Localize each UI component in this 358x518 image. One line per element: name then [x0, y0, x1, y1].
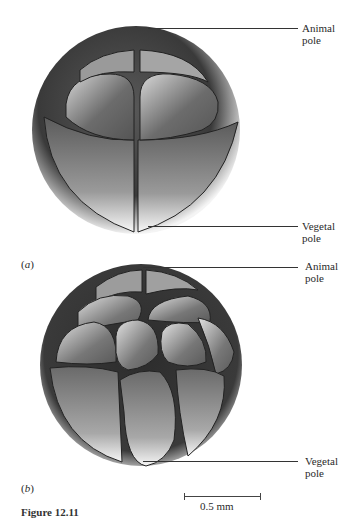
scale-bar-label: 0.5 mm	[200, 500, 234, 512]
panel-letter-a: a	[25, 258, 31, 270]
vegetal-label-line1: Vegetal	[302, 220, 335, 232]
animal-label-line2: pole	[305, 272, 338, 284]
embryo-multicell-image	[38, 262, 244, 468]
animal-pole-label-b: Animal pole	[305, 260, 338, 284]
animal-pole-label-a: Animal pole	[302, 22, 335, 46]
vegetal-pole-label-b: Vegetal pole	[305, 455, 338, 479]
animal-label-line2: pole	[302, 34, 335, 46]
vegetal-pole-label-a: Vegetal pole	[302, 220, 335, 244]
embryo-8-cell-image	[30, 22, 242, 234]
figure-caption: Figure 12.11	[21, 506, 79, 518]
vegetal-label-line2: pole	[302, 232, 335, 244]
scale-bar-tick-right	[260, 493, 261, 500]
vegetal-pole-leader-b	[143, 461, 298, 462]
panel-label-b: (b)	[21, 482, 34, 494]
animal-label-line1: Animal	[302, 22, 335, 34]
animal-pole-leader-a	[148, 28, 298, 29]
animal-label-line1: Animal	[305, 260, 338, 272]
vegetal-pole-leader-a	[148, 226, 298, 227]
panel-label-a: (a)	[21, 258, 34, 270]
vegetal-label-line1: Vegetal	[305, 455, 338, 467]
animal-pole-leader-b	[143, 267, 298, 268]
vegetal-label-line2: pole	[305, 467, 338, 479]
panel-letter-b: b	[25, 482, 31, 494]
scale-bar-tick-left	[184, 493, 185, 500]
scale-bar	[184, 496, 261, 497]
